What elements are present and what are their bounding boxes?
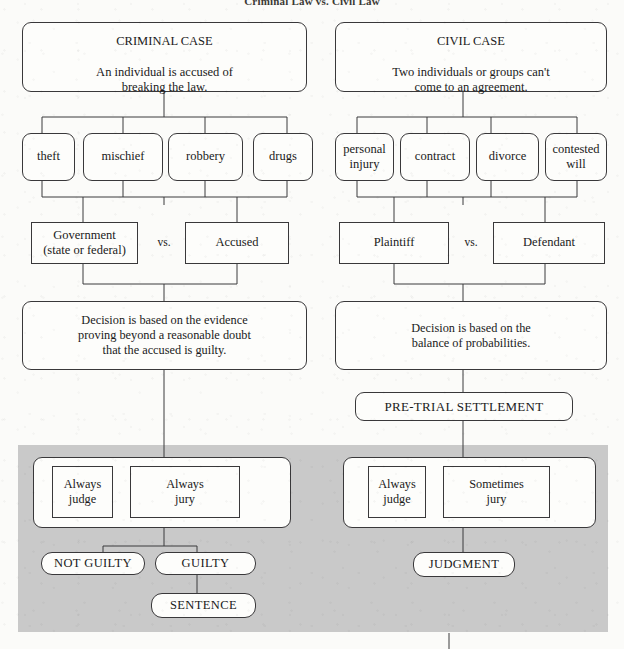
page-title: Criminal Law vs. Civil Law <box>0 0 624 7</box>
criminal-outcome-label: NOT GUILTY <box>50 556 136 571</box>
civil-category-label: contract <box>411 149 459 164</box>
diagram-canvas: Criminal Law vs. Civil Law <box>0 0 624 649</box>
criminal-outcome-guilty: GUILTY <box>155 552 256 575</box>
criminal-standard-text: Decision is based on the evidence provin… <box>74 313 255 358</box>
criminal-outcome-label: GUILTY <box>178 556 234 571</box>
criminal-party-government: Government (state or federal) <box>31 222 138 264</box>
civil-category-contested-will[interactable]: contested will <box>545 133 607 181</box>
civil-pre-trial-settlement: PRE-TRIAL SETTLEMENT <box>355 392 573 421</box>
civil-heading: CIVIL CASE <box>437 34 505 48</box>
civil-outcome-judgment: JUDGMENT <box>413 552 515 577</box>
criminal-final-label: SENTENCE <box>166 598 241 613</box>
criminal-heading: CRIMINAL CASE <box>116 34 212 48</box>
civil-trier-right-label: Sometimes jury <box>465 477 528 507</box>
criminal-final-sentence: SENTENCE <box>151 593 256 618</box>
civil-category-label: contested will <box>548 142 603 173</box>
civil-settlement-label: PRE-TRIAL SETTLEMENT <box>381 399 548 415</box>
civil-trier-judge: Always judge <box>368 466 426 518</box>
civil-trier-jury: Sometimes jury <box>443 466 550 518</box>
criminal-standard-of-proof-box: Decision is based on the evidence provin… <box>22 301 307 370</box>
civil-standard-text: Decision is based on the balance of prob… <box>407 321 535 351</box>
criminal-category-mischief[interactable]: mischief <box>83 133 163 181</box>
criminal-category-label: drugs <box>265 149 301 164</box>
criminal-party-left-label: Government (state or federal) <box>39 228 130 259</box>
civil-category-contract[interactable]: contract <box>400 133 470 181</box>
criminal-category-label: theft <box>33 149 64 164</box>
criminal-trier-jury: Always jury <box>130 466 240 518</box>
criminal-category-drugs[interactable]: drugs <box>253 133 313 181</box>
civil-category-divorce[interactable]: divorce <box>476 133 539 181</box>
civil-header-body: Two individuals or groups can't come to … <box>392 65 550 94</box>
criminal-category-label: mischief <box>97 149 148 164</box>
criminal-category-theft[interactable]: theft <box>22 133 75 181</box>
criminal-vs-label: vs. <box>146 236 182 248</box>
criminal-trier-right-label: Always jury <box>162 477 208 507</box>
civil-category-label: divorce <box>485 149 530 164</box>
civil-party-defendant: Defendant <box>493 222 605 264</box>
criminal-trier-left-label: Always judge <box>60 477 106 507</box>
civil-category-label: personal injury <box>339 142 389 173</box>
civil-category-personal-injury[interactable]: personal injury <box>335 133 394 181</box>
civil-vs-label: vs. <box>453 236 489 248</box>
civil-standard-of-proof-box: Decision is based on the balance of prob… <box>335 301 607 370</box>
criminal-outcome-not-guilty: NOT GUILTY <box>41 552 145 575</box>
civil-party-plaintiff: Plaintiff <box>339 222 449 264</box>
criminal-header-box: CRIMINAL CASE An individual is accused o… <box>22 22 307 92</box>
civil-party-left-label: Plaintiff <box>370 235 419 250</box>
criminal-header-body: An individual is accused of breaking the… <box>96 65 233 94</box>
criminal-party-accused: Accused <box>185 222 289 264</box>
criminal-category-label: robbery <box>182 149 229 164</box>
criminal-category-robbery[interactable]: robbery <box>168 133 243 181</box>
civil-party-right-label: Defendant <box>519 235 579 250</box>
criminal-party-right-label: Accused <box>211 235 262 250</box>
criminal-trier-judge: Always judge <box>52 466 113 518</box>
civil-header-box: CIVIL CASE Two individuals or groups can… <box>335 22 607 92</box>
civil-trier-left-label: Always judge <box>374 477 420 507</box>
civil-outcome-label: JUDGMENT <box>425 557 504 572</box>
